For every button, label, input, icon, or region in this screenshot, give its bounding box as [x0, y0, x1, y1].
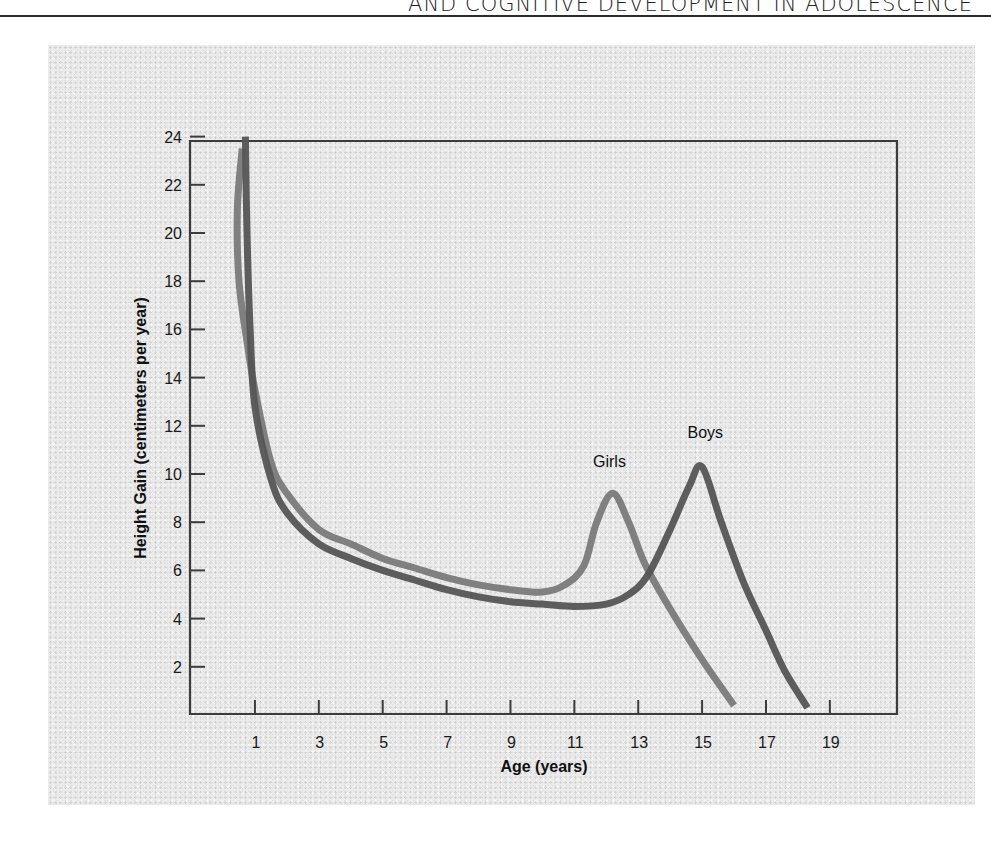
y-tick-label: 20 [164, 225, 182, 242]
x-tick-label: 3 [315, 734, 324, 751]
y-axis: 24681012141618202224 [164, 129, 205, 676]
y-tick-label: 6 [173, 562, 182, 579]
x-tick-label: 11 [567, 734, 584, 751]
height-gain-chart: 24681012141618202224 135791113151719 Gir… [0, 0, 991, 850]
series-line-boys [245, 137, 807, 708]
x-tick-label: 19 [822, 734, 840, 751]
y-tick-label: 4 [173, 611, 182, 628]
y-tick-label: 12 [164, 418, 182, 435]
x-tick-label: 15 [694, 734, 712, 751]
y-tick-label: 22 [164, 177, 182, 194]
axes-frame [190, 141, 897, 714]
y-tick-label: 2 [173, 659, 182, 676]
series-line-girls [237, 149, 734, 706]
y-tick-label: 14 [164, 370, 182, 387]
series-lines [237, 137, 807, 708]
plot-frame [190, 141, 897, 714]
y-axis-title: Height Gain (centimeters per year) [132, 297, 149, 558]
x-tick-label: 7 [443, 734, 452, 751]
label-boys: Boys [688, 424, 724, 441]
y-tick-label: 24 [164, 129, 182, 146]
x-axis: 135791113151719 [251, 700, 839, 751]
y-tick-label: 8 [173, 514, 182, 531]
label-girls: Girls [593, 453, 626, 470]
y-tick-label: 16 [164, 321, 182, 338]
y-tick-label: 10 [164, 466, 182, 483]
x-tick-label: 5 [379, 734, 388, 751]
x-tick-label: 1 [251, 734, 260, 751]
x-tick-label: 9 [507, 734, 516, 751]
x-tick-label: 13 [630, 734, 648, 751]
x-tick-label: 17 [758, 734, 776, 751]
y-tick-label: 18 [164, 273, 182, 290]
series-labels: GirlsBoys [593, 424, 723, 470]
x-axis-title: Age (years) [500, 758, 587, 775]
